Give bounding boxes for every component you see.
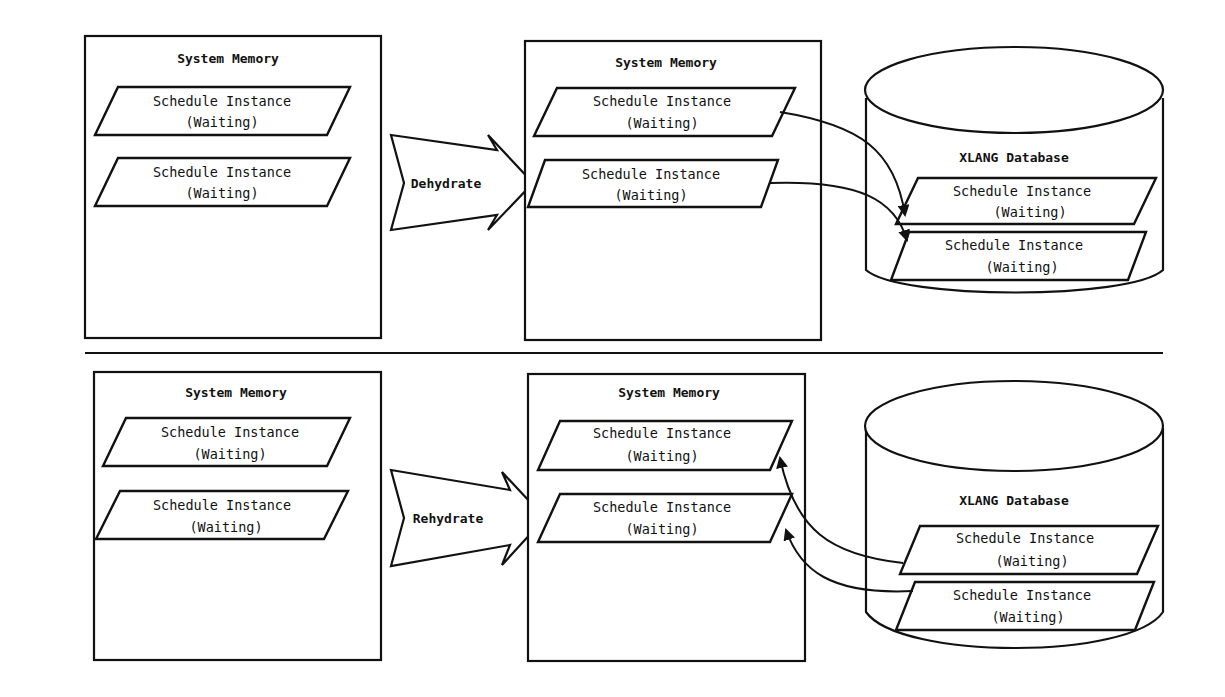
schedule-instance: Schedule Instance (Waiting) — [896, 178, 1156, 224]
svg-text:Schedule Instance: Schedule Instance — [153, 93, 291, 109]
schedule-instance: Schedule Instance (Waiting) — [95, 87, 350, 135]
svg-text:Schedule Instance: Schedule Instance — [582, 166, 720, 182]
schedule-instance: Schedule Instance (Waiting) — [96, 491, 348, 539]
xlang-database-top: XLANG Database Schedule Instance (Waitin… — [865, 47, 1163, 293]
svg-text:Schedule Instance: Schedule Instance — [953, 587, 1091, 603]
schedule-instance: Schedule Instance (Waiting) — [896, 582, 1154, 630]
schedule-instance: Schedule Instance (Waiting) — [528, 160, 778, 207]
dehydrate-arrow: Dehydrate — [391, 135, 533, 230]
svg-text:(Waiting): (Waiting) — [193, 446, 266, 462]
svg-text:(Waiting): (Waiting) — [189, 519, 262, 535]
system-memory-box-bottom-right: System Memory Schedule Instance (Waiting… — [528, 374, 805, 661]
svg-text:Schedule Instance: Schedule Instance — [953, 183, 1091, 199]
rehydrate-arrow: Rehydrate — [391, 470, 545, 566]
svg-text:Schedule Instance: Schedule Instance — [153, 164, 291, 180]
svg-text:(Waiting): (Waiting) — [991, 609, 1064, 625]
database-title: XLANG Database — [959, 150, 1069, 165]
memory-title: System Memory — [177, 51, 279, 66]
top-panel: System Memory Schedule Instance (Waiting… — [85, 36, 1163, 340]
bottom-panel: System Memory Schedule Instance (Waiting… — [94, 372, 1163, 661]
schedule-instance: Schedule Instance (Waiting) — [95, 158, 350, 206]
schedule-instance: Schedule Instance (Waiting) — [103, 418, 350, 466]
svg-text:(Waiting): (Waiting) — [185, 185, 258, 201]
svg-text:Schedule Instance: Schedule Instance — [153, 497, 291, 513]
system-memory-box-top-left: System Memory Schedule Instance (Waiting… — [85, 36, 381, 338]
svg-text:Schedule Instance: Schedule Instance — [593, 93, 731, 109]
system-memory-box-bottom-left: System Memory Schedule Instance (Waiting… — [94, 372, 381, 660]
dehydrate-label: Dehydrate — [411, 176, 482, 191]
memory-title: System Memory — [618, 385, 720, 400]
schedule-instance: Schedule Instance (Waiting) — [891, 232, 1146, 280]
svg-text:Schedule Instance: Schedule Instance — [956, 530, 1094, 546]
rehydrate-label: Rehydrate — [413, 511, 484, 526]
database-title: XLANG Database — [959, 493, 1069, 508]
svg-text:(Waiting): (Waiting) — [625, 448, 698, 464]
svg-text:Schedule Instance: Schedule Instance — [945, 237, 1083, 253]
svg-text:(Waiting): (Waiting) — [625, 115, 698, 131]
svg-text:Schedule Instance: Schedule Instance — [593, 499, 731, 515]
schedule-instance: Schedule Instance (Waiting) — [538, 494, 792, 542]
svg-text:(Waiting): (Waiting) — [625, 521, 698, 537]
schedule-instance: Schedule Instance (Waiting) — [900, 526, 1158, 574]
svg-text:(Waiting): (Waiting) — [995, 553, 1068, 569]
svg-text:Schedule Instance: Schedule Instance — [593, 425, 731, 441]
system-memory-box-top-right: System Memory Schedule Instance (Waiting… — [525, 41, 821, 340]
svg-text:(Waiting): (Waiting) — [993, 204, 1066, 220]
svg-text:(Waiting): (Waiting) — [614, 187, 687, 203]
memory-title: System Memory — [185, 385, 287, 400]
svg-text:Schedule Instance: Schedule Instance — [161, 424, 299, 440]
schedule-instance: Schedule Instance (Waiting) — [538, 421, 792, 470]
xlang-database-bottom: XLANG Database Schedule Instance (Waitin… — [865, 381, 1163, 648]
schedule-instance: Schedule Instance (Waiting) — [534, 88, 795, 136]
svg-text:(Waiting): (Waiting) — [185, 114, 258, 130]
memory-title: System Memory — [615, 55, 717, 70]
svg-text:(Waiting): (Waiting) — [985, 259, 1058, 275]
